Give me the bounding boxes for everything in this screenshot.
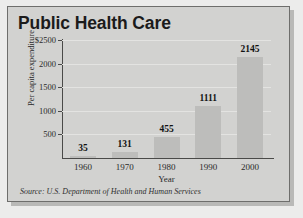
chart-panel: Public Health Care Per capita expenditur… [7,6,290,202]
y-axis-tick [58,64,62,65]
chart-screenshot: Public Health Care Per capita expenditur… [0,0,303,218]
plot-wrapper: Per capita expenditure 500100015002000$2… [8,7,289,201]
y-axis-tick [58,87,62,88]
x-tick-label: 1960 [74,162,92,172]
bar [195,106,221,158]
bar-value-label: 2145 [241,44,260,54]
x-tick-label: 1970 [116,162,134,172]
y-tick-label: 1000 [39,106,56,116]
gridline [62,40,271,41]
bar [70,156,96,158]
y-axis-tick [58,134,62,135]
bar-value-label: 131 [118,139,132,149]
bar-value-label: 35 [78,143,88,153]
bar [112,152,138,158]
bar-value-label: 1111 [200,93,217,103]
y-axis-tick [58,111,62,112]
y-tick-label: 500 [43,129,56,139]
y-tick-label: 2000 [39,59,56,69]
y-tick-label: $2500 [35,35,56,45]
source-note: Source: U.S. Department of Health and Hu… [20,187,201,196]
plot-area: 500100015002000$25003513145511112145 [62,40,271,158]
x-tick-label: 1980 [158,162,176,172]
x-axis-line [62,158,274,159]
x-tick-label: 1990 [199,162,217,172]
bar [154,137,180,158]
y-axis-label: Per capita expenditure [26,13,36,123]
x-axis-label: Year [62,174,271,184]
y-axis-tick [58,40,62,41]
bar-value-label: 455 [159,124,173,134]
bar [237,57,263,158]
x-tick-label: 2000 [241,162,259,172]
y-tick-label: 1500 [39,82,56,92]
